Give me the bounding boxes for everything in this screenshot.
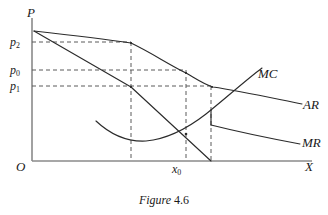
origin-label: O [16,160,25,173]
curve-MR-upper [34,31,131,87]
economics-plot [0,0,328,215]
curve-label-mc: MC [258,67,278,80]
y-tick-label-p1: p1 [10,80,20,94]
figure-container: P X O p2 p0 p1 x0 MC AR MR Figure 4.6 [0,0,328,215]
y-tick-p1-subscript: 1 [16,85,20,94]
curve-label-mr: MR [302,136,321,149]
x-axis-label: X [305,160,313,173]
point-mc-mr-intersection [185,133,188,136]
y-tick-p2-subscript: 2 [16,41,20,50]
point-kink2 [211,86,213,88]
y-tick-label-p2: p2 [10,36,20,50]
y-tick-p0-subscript: 0 [16,69,20,78]
point-kink1 [130,42,132,44]
curve-MC [96,68,262,141]
figure-caption-number: 4.6 [174,193,189,207]
y-axis-label: P [27,6,35,19]
figure-caption-word: Figure [139,193,171,207]
figure-caption: Figure 4.6 [0,193,328,208]
point-x0-on-AR [185,72,187,74]
x-tick-label-x0: x0 [172,163,181,177]
curve-MR-middle [131,87,211,161]
y-tick-label-p0: p0 [10,64,20,78]
x-tick-x0-subscript: 0 [177,168,181,177]
curve-MR-lower [211,125,300,144]
curve-label-ar: AR [303,98,319,111]
point-mr-upper-kink [130,86,132,88]
